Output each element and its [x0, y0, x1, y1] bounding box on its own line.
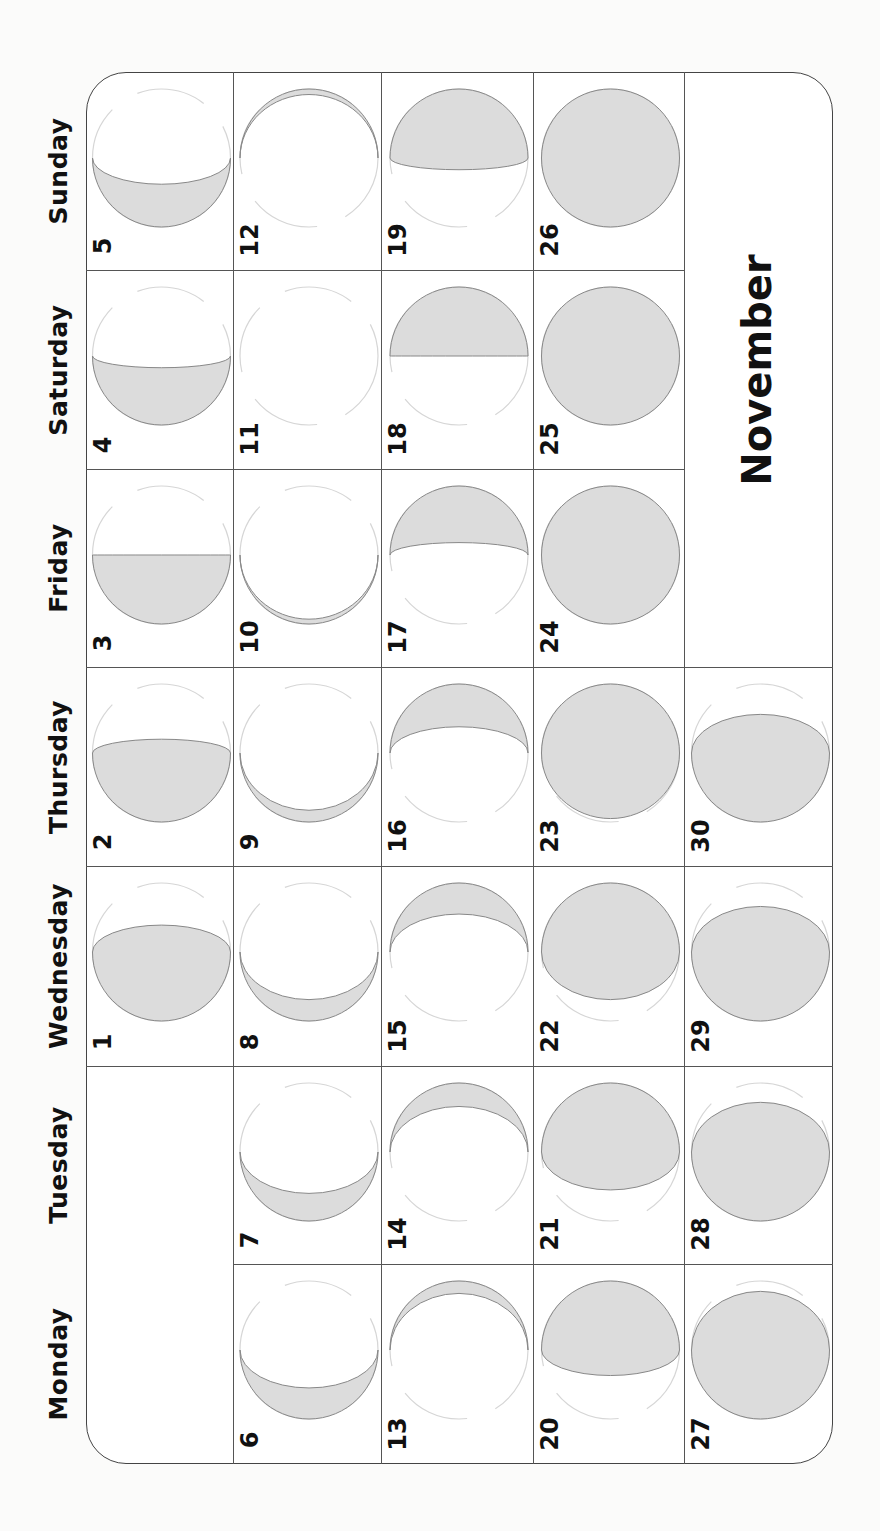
day-number-text: 30: [687, 819, 715, 852]
day-number-text: 11: [236, 422, 264, 455]
day-cell: 4: [86, 270, 233, 469]
day-number-text: 1: [89, 1034, 117, 1051]
day-cell: 30: [684, 667, 833, 866]
day-number-text: 8: [236, 1034, 264, 1051]
day-number-text: 24: [536, 620, 564, 653]
day-cell: 10: [233, 469, 381, 667]
weekday-text: Friday: [44, 523, 73, 613]
day-cell: 25: [533, 270, 684, 469]
day-cell: 14: [381, 1066, 533, 1264]
day-number-text: 27: [687, 1417, 715, 1450]
day-number-text: 20: [536, 1417, 564, 1450]
weekday-text: Sunday: [44, 118, 73, 225]
weekday-text: Thursday: [44, 699, 73, 833]
day-cell: 9: [233, 667, 381, 866]
day-cell: 28: [684, 1066, 833, 1264]
day-cell: 7: [233, 1066, 381, 1264]
day-number-text: 21: [536, 1217, 564, 1250]
day-cell: 24: [533, 469, 684, 667]
day-number-text: 4: [89, 437, 117, 454]
weekday-text: Wednesday: [44, 883, 73, 1049]
weekday-text: Tuesday: [44, 1106, 73, 1224]
day-cell: 18: [381, 270, 533, 469]
day-number-text: 17: [384, 620, 412, 653]
day-number-text: 22: [536, 1019, 564, 1052]
day-cell: 3: [86, 469, 233, 667]
day-cell: 5: [86, 72, 233, 270]
day-cell: 12: [233, 72, 381, 270]
day-number-text: 12: [236, 223, 264, 256]
day-cell: 17: [381, 469, 533, 667]
moon-phase-calendar: SundaySaturdayFridayThursdayWednesdayTue…: [0, 0, 880, 1531]
day-number-text: 6: [236, 1432, 264, 1449]
month-title-text: November: [734, 254, 780, 485]
day-number-text: 25: [536, 422, 564, 455]
day-number-text: 28: [687, 1217, 715, 1250]
day-cell: 27: [684, 1264, 833, 1464]
day-number-text: 15: [384, 1019, 412, 1052]
day-cell: 13: [381, 1264, 533, 1464]
day-cell: 11: [233, 270, 381, 469]
day-number-text: 19: [384, 223, 412, 256]
day-cell: 29: [684, 866, 833, 1066]
day-number-text: 7: [236, 1232, 264, 1249]
day-cell: 2: [86, 667, 233, 866]
day-number-text: 18: [384, 422, 412, 455]
day-number-text: 13: [384, 1417, 412, 1450]
day-number-text: 29: [687, 1019, 715, 1052]
day-cell: 26: [533, 72, 684, 270]
day-number-text: 23: [536, 819, 564, 852]
day-cell: 22: [533, 866, 684, 1066]
day-cell: 16: [381, 667, 533, 866]
day-cell: 19: [381, 72, 533, 270]
day-number-text: 10: [236, 620, 264, 653]
day-number-text: 14: [384, 1217, 412, 1250]
day-cell: 21: [533, 1066, 684, 1264]
day-number-text: 9: [236, 834, 264, 851]
day-number-text: 26: [536, 223, 564, 256]
day-cell: 23: [533, 667, 684, 866]
day-cell: 20: [533, 1264, 684, 1464]
weekday-text: Monday: [44, 1307, 73, 1420]
day-cell: 15: [381, 866, 533, 1066]
day-cell: 8: [233, 866, 381, 1066]
day-number-text: 5: [89, 238, 117, 255]
day-number-text: 3: [89, 635, 117, 652]
day-cell: 6: [233, 1264, 381, 1464]
weekday-text: Saturday: [44, 304, 73, 435]
day-cell: 1: [86, 866, 233, 1066]
day-number-text: 16: [384, 819, 412, 852]
day-number-text: 2: [89, 834, 117, 851]
